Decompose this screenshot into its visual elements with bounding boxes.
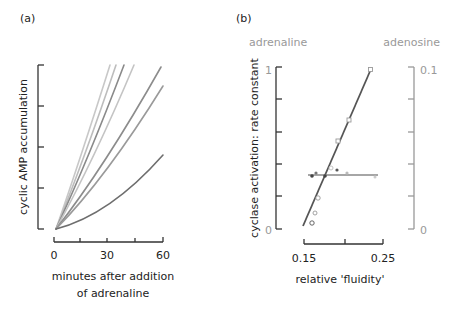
left-axis-top-label: 1 xyxy=(265,64,272,77)
panel-a-y-axis xyxy=(38,65,44,229)
figure: (a) cyclic AMP accumulation 0 30 60 minu… xyxy=(0,0,452,311)
panel-a-curves xyxy=(56,65,163,229)
panel-b-right-axis xyxy=(408,67,414,229)
left-axis-title: adrenaline xyxy=(249,36,308,49)
curve-2 xyxy=(56,65,116,229)
panel-b-y-label: cyclase activation: rate constant xyxy=(248,57,261,237)
panel-a-x-label-line2: of adrenaline xyxy=(77,287,150,300)
adenosine-points xyxy=(310,168,376,178)
curve-1 xyxy=(56,65,110,229)
panel-a-x-label-line1: minutes after addition xyxy=(52,270,174,283)
adrenaline-fit-line xyxy=(303,69,371,226)
panel-b-x-tick-right: 0.25 xyxy=(371,252,396,265)
panel-b: (b) adrenaline adenosine 1 0 cyclase act… xyxy=(236,12,440,286)
adrenaline-points xyxy=(310,68,373,226)
right-axis-title: adenosine xyxy=(383,36,440,49)
panel-a: (a) cyclic AMP accumulation 0 30 60 minu… xyxy=(17,12,174,300)
panel-b-x-label: relative 'fluidity' xyxy=(296,273,385,286)
panel-a-x-tick-60: 60 xyxy=(156,249,170,262)
panel-b-left-axis xyxy=(276,67,282,229)
panel-a-y-label: cyclic AMP accumulation xyxy=(17,79,30,215)
panel-a-x-tick-30: 30 xyxy=(100,249,114,262)
panel-a-x-tick-0: 0 xyxy=(51,249,58,262)
panel-a-label: (a) xyxy=(20,12,35,25)
panel-b-x-tick-left: 0.15 xyxy=(292,252,317,265)
panel-b-x-axis xyxy=(304,239,383,244)
right-axis-top-label: 0.1 xyxy=(420,64,438,77)
left-axis-bottom-label: 0 xyxy=(265,224,272,237)
panel-b-label: (b) xyxy=(236,12,252,25)
panel-a-x-axis xyxy=(54,237,163,242)
right-axis-bottom-label: 0 xyxy=(420,224,427,237)
